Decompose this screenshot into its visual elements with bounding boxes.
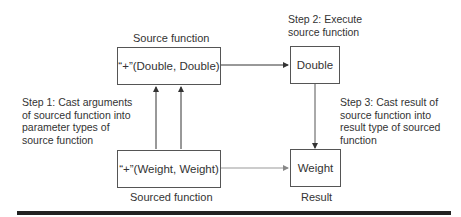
step2-note: Step 2: Execute source function xyxy=(288,13,362,38)
double-box-text: Double xyxy=(297,59,333,71)
source-function-signature: “+”(Double, Double) xyxy=(118,60,219,72)
sourced-function-caption: Sourced function xyxy=(130,191,213,203)
sourced-function-signature: “+”(Weight, Weight) xyxy=(119,163,219,175)
weight-result-box: Weight xyxy=(290,149,341,187)
step1-note: Step 1: Cast arguments of sourced functi… xyxy=(22,96,132,146)
double-result-box: Double xyxy=(290,46,340,84)
weight-box-text: Weight xyxy=(298,162,334,174)
step3-note: Step 3: Cast result of source function i… xyxy=(340,96,440,146)
sourced-function-box: “+”(Weight, Weight) xyxy=(117,150,221,188)
source-function-caption: Source function xyxy=(133,32,209,44)
source-function-box: “+”(Double, Double) xyxy=(117,47,221,85)
bottom-rule xyxy=(17,211,451,215)
result-caption: Result xyxy=(301,191,332,203)
